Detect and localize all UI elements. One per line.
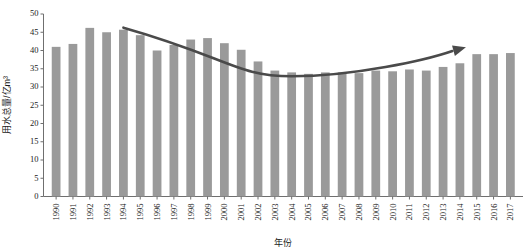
y-tick-label: 25 (30, 100, 39, 110)
bar (287, 72, 296, 196)
bar (254, 61, 263, 196)
x-tick-label: 2013 (438, 204, 448, 221)
y-tick-layer: 05101520253035404550 (30, 8, 44, 201)
x-tick-label: 2009 (371, 204, 381, 221)
x-tick-label: 1992 (85, 204, 95, 221)
x-tick-label: 1998 (186, 204, 196, 221)
bar (170, 45, 179, 196)
x-tick-label: 2004 (287, 203, 297, 221)
y-tick-label: 40 (30, 45, 39, 55)
bar (338, 72, 347, 196)
x-tick-layer: 1990199119921993199419951996199719981999… (51, 197, 515, 221)
bar (304, 74, 313, 197)
x-tick-label: 2014 (455, 203, 465, 221)
bar (52, 47, 61, 197)
y-axis-title: 用水总量/亿m³ (1, 76, 12, 134)
bar (237, 50, 246, 197)
bar (371, 71, 380, 197)
x-tick-label: 1990 (51, 204, 61, 221)
x-tick-label: 2011 (404, 204, 414, 221)
y-tick-label: 20 (30, 118, 39, 128)
x-tick-label: 1993 (102, 204, 112, 221)
x-tick-label: 2012 (421, 204, 431, 221)
x-tick-label: 2017 (505, 204, 515, 221)
y-tick-label: 10 (30, 154, 39, 164)
y-tick-label: 50 (30, 8, 39, 18)
chart-canvas: 05101520253035404550 1990199119921993199… (0, 0, 531, 251)
bar (270, 71, 279, 197)
bar (388, 71, 397, 196)
x-tick-label: 2001 (236, 204, 246, 221)
bar (203, 38, 212, 196)
bar (506, 53, 515, 196)
x-tick-label: 1999 (203, 204, 213, 221)
bar (422, 71, 431, 197)
bar (405, 69, 414, 196)
x-tick-label: 2008 (354, 204, 364, 221)
x-tick-label: 2003 (270, 204, 280, 221)
bar (85, 28, 94, 197)
x-tick-label: 2015 (472, 204, 482, 221)
x-tick-label: 2007 (337, 204, 347, 221)
bar (321, 72, 330, 196)
y-tick-label: 5 (34, 173, 38, 183)
x-tick-label: 2002 (253, 204, 263, 221)
trend-arrow-head (452, 45, 466, 56)
bar (136, 35, 145, 196)
bar (489, 54, 498, 196)
y-tick-label: 0 (34, 191, 38, 201)
bar (186, 40, 195, 197)
bar (456, 63, 465, 196)
y-tick-label: 35 (30, 63, 39, 73)
x-tick-label: 2000 (219, 204, 229, 221)
x-tick-label: 1997 (169, 204, 179, 221)
bar (153, 51, 162, 197)
bar (102, 32, 111, 196)
bar (472, 54, 481, 196)
bar (220, 43, 229, 196)
x-tick-label: 2010 (388, 204, 398, 221)
x-tick-label: 1991 (68, 204, 78, 221)
y-tick-label: 45 (30, 27, 39, 37)
x-axis-title: 年份 (274, 237, 292, 248)
x-tick-label: 2006 (320, 204, 330, 221)
x-tick-label: 1995 (135, 204, 145, 221)
x-tick-label: 1996 (152, 204, 162, 221)
bar (439, 67, 448, 197)
x-tick-label: 2016 (489, 204, 499, 221)
y-tick-label: 15 (30, 136, 39, 146)
y-tick-label: 30 (30, 81, 39, 91)
bar (69, 44, 78, 197)
bar (119, 30, 128, 197)
x-tick-label: 2005 (303, 204, 313, 221)
bar (355, 73, 364, 196)
water-use-bar-chart: 05101520253035404550 1990199119921993199… (0, 0, 531, 251)
x-tick-label: 1994 (118, 203, 128, 221)
